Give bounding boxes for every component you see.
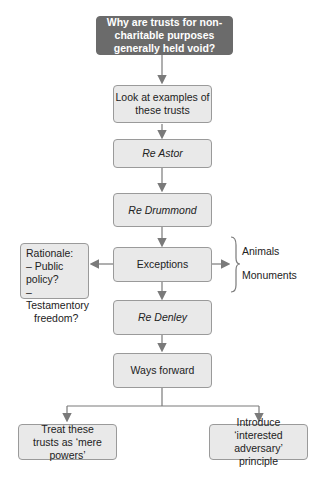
examples-text: Look at examples of these trusts (114, 91, 211, 117)
examples-node: Look at examples of these trusts (113, 85, 212, 123)
title-text: Why are trusts for non-charitable purpos… (97, 16, 232, 55)
ways-forward-text: Ways forward (131, 364, 195, 377)
interested-adversary-text: Introduce ‘interested adversary’ princip… (214, 416, 303, 468)
re-denley-text: Re Denley (138, 311, 187, 324)
rationale-line-2: – Testamentory (26, 286, 88, 312)
re-drummond-node: Re Drummond (113, 193, 212, 227)
connector-lines (0, 0, 324, 478)
mere-powers-text: Treat these trusts as ‘mere powers’ (29, 423, 106, 462)
rationale-heading: Rationale: (26, 247, 88, 260)
exceptions-text: Exceptions (137, 258, 188, 271)
re-astor-node: Re Astor (113, 139, 212, 168)
mere-powers-node: Treat these trusts as ‘mere powers’ (18, 424, 117, 460)
rationale-line-3: freedom? (26, 312, 88, 325)
exception-animals: Animals (242, 245, 279, 257)
re-astor-text: Re Astor (142, 147, 182, 160)
rationale-node: Rationale: – Public policy? – Testamento… (20, 243, 89, 299)
interested-adversary-node: Introduce ‘interested adversary’ princip… (209, 424, 308, 460)
exception-monuments: Monuments (242, 269, 297, 281)
re-denley-node: Re Denley (113, 300, 212, 335)
re-drummond-text: Re Drummond (128, 204, 196, 217)
title-node: Why are trusts for non-charitable purpos… (96, 16, 233, 55)
rationale-line-1: – Public policy? (26, 260, 88, 286)
ways-forward-node: Ways forward (113, 353, 212, 388)
exceptions-node: Exceptions (113, 247, 212, 282)
